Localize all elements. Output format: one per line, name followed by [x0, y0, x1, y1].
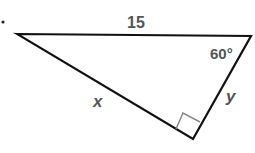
- problem-marker-dot: [1, 20, 4, 23]
- leg-y-label: y: [225, 87, 237, 106]
- angle-label: 60°: [210, 45, 233, 62]
- triangle-diagram: 15 60° x y: [0, 0, 255, 153]
- right-angle-mark: [176, 113, 200, 129]
- leg-x-label: x: [92, 92, 104, 111]
- hypotenuse-label: 15: [127, 14, 145, 31]
